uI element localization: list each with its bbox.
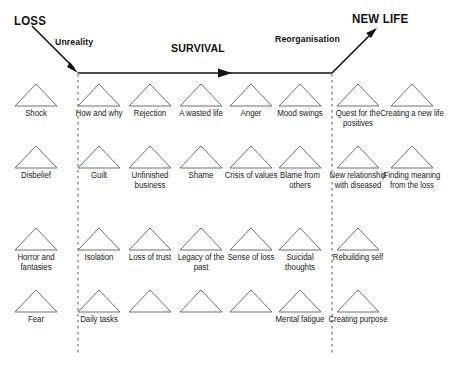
triangle-icon [178,226,224,252]
triangle-icon [277,288,323,314]
triangle-icon [76,82,122,108]
triangle-icon [76,288,122,314]
unreality-phase-label: Unreality [55,36,93,47]
stage-cell-label: Creating purpose [323,315,393,325]
triangle-icon [76,226,122,252]
stage-cell[interactable]: Rebuilding self [321,226,395,263]
triangle-icon [277,82,323,108]
stage-cell-label: Fear [7,315,66,325]
triangle-icon [228,288,274,314]
triangle-icon [228,82,274,108]
stage-cell-label: Disbelief [7,171,66,181]
loss-arrow-line [32,26,74,68]
triangle-icon [127,144,173,170]
stage-cell-label: Rebuilding self [323,253,393,263]
triangle-icon [335,226,381,252]
reorganisation-phase-label: Reorganisation [275,33,340,44]
stage-cell-label: Shock [7,109,66,119]
triangle-icon [13,82,59,108]
loss-heading: LOSS [14,14,46,28]
stage-cell-label: Creating a new life [377,109,447,119]
triangle-icon [127,288,173,314]
stage-cell-label: Finding meaning from the loss [377,171,447,190]
triangle-icon [13,288,59,314]
grief-stages-diagram: LOSS NEW LIFE Unreality SURVIVAL Reorgan… [0,0,458,365]
stage-cell-label: Daily tasks [70,315,129,325]
triangle-icon [389,144,435,170]
stage-cell-label: Horror and fantasies [7,253,66,272]
stage-cell[interactable]: Horror and fantasies [5,226,67,272]
triangle-icon [228,144,274,170]
loss-arrowhead [67,62,78,73]
triangle-icon [127,226,173,252]
triangle-icon [335,288,381,314]
triangle-icon [13,226,59,252]
triangle-icon [178,144,224,170]
triangle-icon [228,226,274,252]
triangle-icon [389,82,435,108]
stage-cell[interactable]: Disbelief [5,144,67,181]
triangle-icon [277,144,323,170]
survival-arrowhead [218,69,232,78]
triangle-icon [277,226,323,252]
triangle-icon [178,82,224,108]
new-life-heading: NEW LIFE [352,12,408,26]
triangle-icon [76,144,122,170]
stage-cell[interactable]: Creating a new life [375,82,449,119]
stage-cell[interactable]: Finding meaning from the loss [375,144,449,190]
triangle-icon [13,144,59,170]
survival-phase-label: SURVIVAL [171,42,225,54]
triangle-icon [178,288,224,314]
stage-cell[interactable]: Creating purpose [321,288,395,325]
stage-cell[interactable]: Shock [5,82,67,119]
triangle-icon [127,82,173,108]
new-life-arrowhead [366,28,377,38]
stage-cell[interactable]: Fear [5,288,67,325]
